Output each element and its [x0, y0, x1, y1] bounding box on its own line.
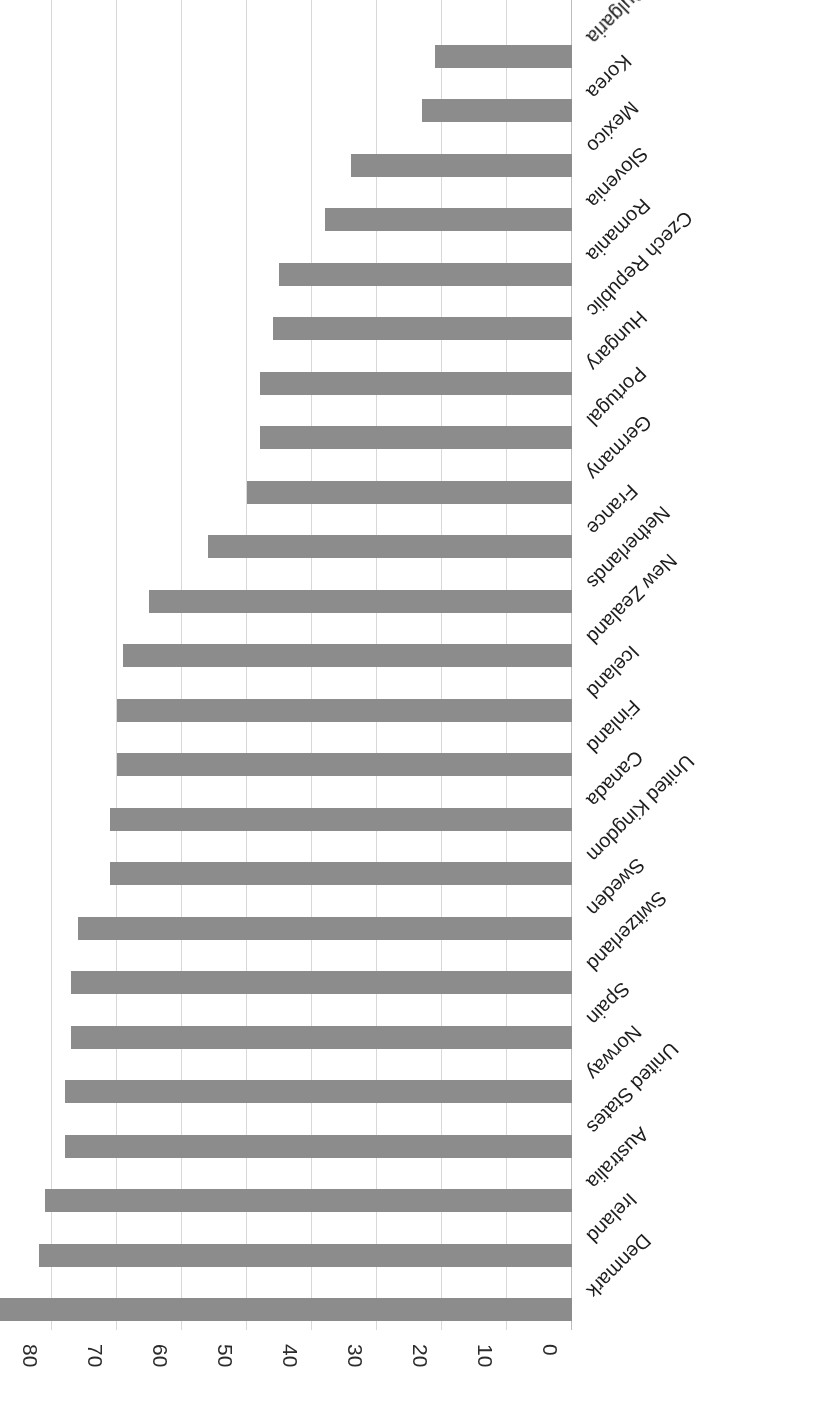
axis-tick-label-70: 70 — [83, 1344, 107, 1367]
bar — [208, 536, 572, 559]
axis-tick-label-30: 30 — [343, 1344, 367, 1367]
bar — [46, 1190, 573, 1213]
bar — [117, 754, 572, 777]
bar — [111, 863, 573, 886]
axis-tick-label-40: 40 — [278, 1344, 302, 1367]
bar — [65, 1135, 572, 1158]
bar-chart-plot-area: 1009080706050403020100DenmarkIrelandAust… — [0, 0, 819, 1406]
axis-tick-label-80: 80 — [18, 1344, 42, 1367]
axis-tick-label-60: 60 — [148, 1344, 172, 1367]
bar — [65, 1081, 572, 1104]
bar — [260, 427, 572, 450]
chart-page: 1009080706050403020100DenmarkIrelandAust… — [0, 0, 819, 1406]
rotated-figure-container: 1009080706050403020100DenmarkIrelandAust… — [0, 0, 819, 1406]
bar — [111, 808, 573, 831]
bar — [0, 1299, 572, 1322]
category-label: Hungary — [582, 306, 652, 376]
bar — [351, 154, 572, 177]
axis-tick-label-20: 20 — [408, 1344, 432, 1367]
category-label: Bulgaria — [582, 0, 650, 49]
bar — [78, 917, 572, 940]
gridline-80 — [51, 0, 52, 1330]
axis-tick-label-50: 50 — [213, 1344, 237, 1367]
bar — [117, 699, 572, 722]
bar — [72, 1026, 573, 1049]
bar — [150, 590, 573, 613]
bar — [423, 100, 573, 123]
category-label: Finland — [582, 695, 645, 758]
bar — [124, 645, 573, 668]
bar — [72, 972, 573, 995]
bar — [436, 45, 573, 68]
bar — [39, 1244, 572, 1267]
bar — [247, 481, 572, 504]
gridline-70 — [116, 0, 117, 1330]
bar — [280, 263, 573, 286]
bar — [325, 209, 572, 232]
category-label: Iceland — [582, 641, 644, 703]
axis-tick-label-0: 0 — [538, 1344, 562, 1356]
category-label: Korea — [582, 50, 636, 104]
bar — [273, 318, 572, 341]
axis-tick-label-10: 10 — [473, 1344, 497, 1367]
bar — [260, 372, 572, 395]
